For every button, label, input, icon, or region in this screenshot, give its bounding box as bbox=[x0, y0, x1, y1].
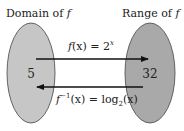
range-title: Range of f bbox=[122, 7, 181, 20]
range-value: 32 bbox=[142, 67, 157, 81]
domain-title: Domain of f bbox=[6, 7, 73, 20]
function-mapping-diagram: Domain of f Range of f 5 32 f(x) = 2x f−… bbox=[0, 0, 184, 131]
forward-function-label: f(x) = 2x bbox=[67, 39, 114, 53]
domain-value: 5 bbox=[27, 67, 35, 81]
inverse-function-label: f−1(x) = log2(x) bbox=[55, 92, 138, 108]
